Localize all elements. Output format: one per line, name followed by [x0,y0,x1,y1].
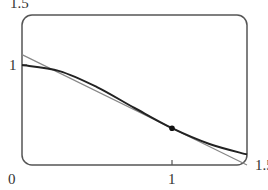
plot-canvas [0,0,268,190]
x-tick-label-max: 1.5 [255,158,268,173]
tangent-point-marker [169,125,175,131]
y-tick-label-max: 1.5 [10,0,29,11]
y-tick-label-1: 1 [9,58,17,73]
series-layer [22,55,247,165]
tangent-line [22,55,247,165]
x-tick-label-1: 1 [168,172,176,187]
origin-label: 0 [8,172,16,187]
plot-frame [22,15,247,165]
